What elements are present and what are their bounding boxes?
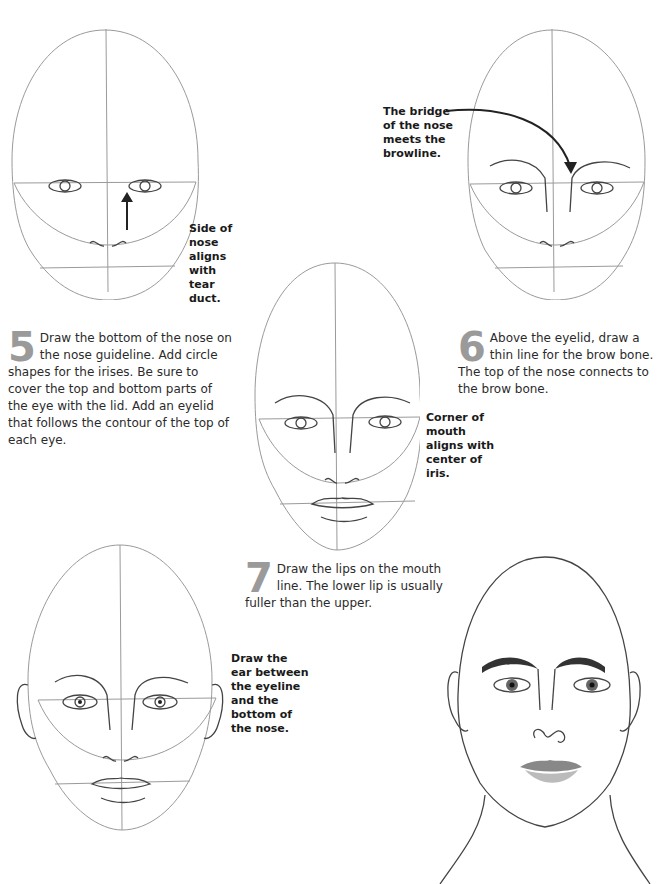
callout-tear-duct: Side of nose aligns with tear duct. [189, 222, 241, 306]
callout-mouth-corner: Corner of mouth aligns with center of ir… [426, 411, 496, 481]
figure-final-portrait [420, 555, 665, 884]
callout-ear: Draw the ear between the eyeline and the… [231, 652, 311, 736]
step-text: Above the eyelid, draw a thin line for t… [458, 331, 653, 396]
arrow-bridge-icon [440, 100, 580, 180]
step-5-instructions: 5 Draw the bottom of the nose on the nos… [8, 330, 233, 449]
step-text: Draw the bottom of the nose on the nose … [8, 331, 232, 447]
figure-step7-head [235, 255, 420, 555]
step-number: 5 [8, 331, 36, 363]
figure-step8-head [0, 540, 240, 840]
step-6-instructions: 6 Above the eyelid, draw a thin line for… [458, 330, 658, 398]
step-text: Draw the lips on the mouth line. The low… [245, 562, 443, 610]
step-number: 6 [458, 331, 486, 363]
step-7-instructions: 7 Draw the lips on the mouth line. The l… [245, 561, 445, 612]
step-number: 7 [245, 562, 273, 594]
